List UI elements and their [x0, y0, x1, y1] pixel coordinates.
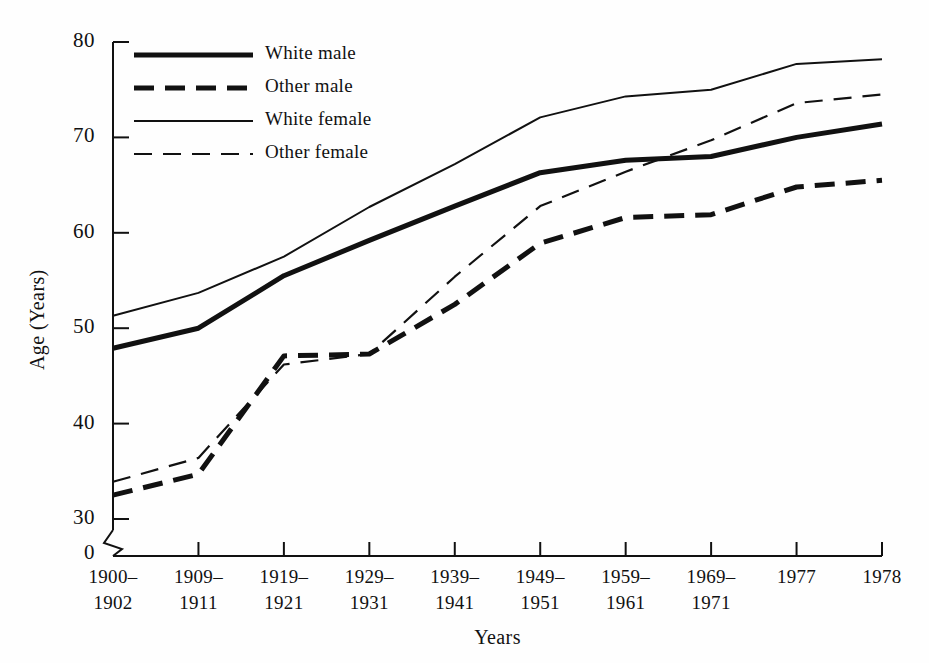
series-line-other-female	[113, 95, 882, 482]
y-axis-title: Age (Years)	[26, 269, 49, 370]
legend-label: Other male	[265, 75, 353, 97]
x-tick-label-line1: 1978	[827, 564, 929, 590]
x-tick-label-line2: 1971	[656, 590, 766, 616]
y-tick-label: 30	[35, 505, 95, 530]
x-tick-label: 1978	[827, 564, 929, 590]
data-series-group	[113, 59, 882, 495]
x-axis-title: Years	[398, 626, 598, 649]
y-tick-label: 60	[35, 219, 95, 244]
axes	[104, 42, 882, 556]
y-tick-label: 40	[35, 410, 95, 435]
legend-label: Other female	[265, 141, 368, 163]
series-line-white-male	[113, 124, 882, 348]
series-line-other-male	[113, 180, 882, 495]
y-tick-label: 80	[35, 28, 95, 53]
y-origin-label: 0	[35, 540, 95, 565]
legend-label: White male	[265, 42, 356, 64]
y-tick-label: 70	[35, 123, 95, 148]
legend-sample-lines	[134, 55, 253, 154]
legend-label: White female	[265, 108, 371, 130]
figure-canvas: 3040506070800 1900–19021909–19111919–192…	[0, 0, 929, 663]
